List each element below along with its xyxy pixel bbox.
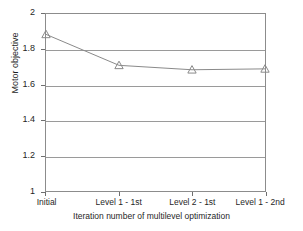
x-axis-tick-label: Level 1 - 2nd [236,198,285,207]
figure-canvas: Motor objective 11.21.41.61.82 InitialLe… [0,0,303,231]
x-axis-label: Iteration number of multilevel optimizat… [0,211,303,221]
x-axis-tick-mark [45,192,46,196]
x-axis-tick-label: Level 1 - 1st [96,198,142,207]
y-axis-tick-label: 2 [11,8,35,17]
y-axis-tick-label: 1.8 [11,44,35,53]
y-axis-tick-label: 1.2 [11,151,35,160]
y-axis-label: Motor objective [10,18,20,108]
x-axis-tick-label: Level 2 - 1st [169,198,215,207]
plot-area [45,13,266,192]
data-point-marker [42,30,50,37]
x-axis-tick-mark [119,192,120,196]
y-axis-tick-label: 1 [11,187,35,196]
data-series-layer [46,14,265,191]
x-axis-tick-label: Initial [37,198,57,207]
y-axis-tick-label: 1.6 [11,80,35,89]
y-axis-tick-label: 1.4 [11,115,35,124]
x-axis-tick-mark [192,192,193,196]
data-marker-group [42,30,269,73]
x-axis-tick-mark [266,192,267,196]
data-line [46,34,265,69]
